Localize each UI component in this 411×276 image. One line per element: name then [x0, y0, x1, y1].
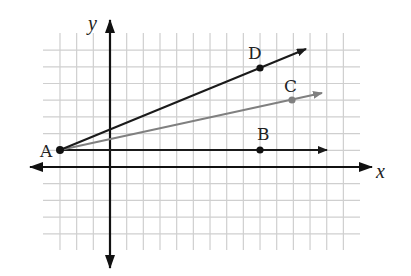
- ray-ac: [60, 93, 322, 150]
- x-axis-label: x: [375, 160, 385, 182]
- point-a: [56, 146, 64, 154]
- y-axis-label: y: [86, 12, 97, 35]
- point-c-label: C: [284, 76, 297, 96]
- point-c: [288, 96, 295, 103]
- coordinate-plane-diagram: x y A B C D: [0, 0, 411, 276]
- point-a-label: A: [39, 141, 53, 161]
- point-d-label: D: [248, 43, 262, 63]
- grid: [43, 33, 360, 250]
- point-b-label: B: [257, 124, 270, 144]
- point-d: [256, 64, 263, 71]
- point-b: [256, 146, 263, 153]
- diagram-canvas: x y A B C D: [0, 0, 411, 276]
